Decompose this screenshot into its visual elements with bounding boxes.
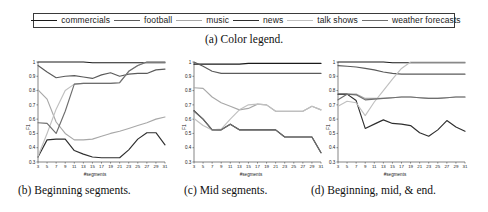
x-tick-label: 21	[273, 164, 278, 169]
x-tick-label: 23	[426, 164, 431, 169]
x-tick-label: 29	[453, 164, 458, 169]
legend-label: music	[206, 16, 229, 25]
x-tick-label: 7	[55, 164, 58, 169]
y-tick-label: 0.3	[185, 160, 192, 165]
x-tick-label: 13	[237, 164, 242, 169]
series-line-music	[194, 88, 321, 112]
legend-label: talk shows	[317, 16, 358, 25]
y-tick-label: 0.9	[185, 74, 192, 79]
y-tick-label: 0.3	[329, 160, 336, 165]
subfigure-caption-c: (c) Mid segments.	[184, 184, 314, 196]
x-tick-label: 31	[163, 164, 168, 169]
y-tick-label: 0.5	[329, 131, 336, 136]
y-tick-label: 0.8	[185, 88, 192, 93]
y-tick-label: 1	[333, 60, 336, 65]
y-tick-label: 0.7	[185, 103, 192, 108]
x-tick-label: 13	[381, 164, 386, 169]
x-tick-label: 7	[355, 164, 358, 169]
y-tick-label: 1	[189, 60, 192, 65]
series-line-talk-shows	[38, 62, 165, 156]
y-tick-label: 0.4	[329, 145, 336, 150]
chart-plot-area-0: 0.30.40.50.60.70.80.91357911131517192123…	[22, 58, 168, 178]
x-tick-label: 21	[417, 164, 422, 169]
legend-line-icon	[176, 20, 202, 21]
chart-beginning-segments: 0.30.40.50.60.70.80.91357911131517192123…	[22, 58, 168, 178]
x-tick-label: 3	[37, 164, 40, 169]
series-line-weather-forecasts	[194, 111, 321, 152]
legend-line-icon	[114, 20, 140, 21]
y-tick-label: 0.5	[185, 131, 192, 136]
y-axis-label-b: F1	[25, 124, 31, 130]
y-axis-label-d: F1	[325, 124, 331, 130]
x-tick-label: 23	[126, 164, 131, 169]
series-line-football	[38, 66, 165, 79]
x-tick-label: 29	[153, 164, 158, 169]
x-tick-label: 5	[202, 164, 205, 169]
legend-label: commercials	[61, 16, 110, 25]
y-tick-label: 0.6	[329, 117, 336, 122]
y-tick-label: 0.4	[29, 145, 36, 150]
x-tick-label: 5	[46, 164, 49, 169]
y-tick-label: 0.9	[329, 74, 336, 79]
x-tick-label: 23	[282, 164, 287, 169]
x-axis-label-d: #segments	[322, 172, 468, 177]
y-tick-label: 0.5	[29, 131, 36, 136]
figure-container: commercialsfootballmusicnewstalk showswe…	[0, 0, 488, 212]
y-axis-label-c: F1	[181, 124, 187, 130]
x-tick-label: 9	[64, 164, 67, 169]
x-tick-label: 27	[144, 164, 149, 169]
x-tick-label: 15	[390, 164, 395, 169]
axis-lines	[338, 62, 465, 162]
x-tick-label: 29	[309, 164, 314, 169]
chart-beginning-mid-end: 0.30.40.50.60.70.80.91357911131517192123…	[322, 58, 468, 178]
x-axis-label-b: #segments	[22, 172, 168, 177]
x-tick-label: 27	[300, 164, 305, 169]
y-tick-label: 0.8	[329, 88, 336, 93]
chart-plot-area-1: 0.30.40.50.60.70.80.91357911131517192123…	[178, 58, 324, 178]
y-tick-label: 0.7	[29, 103, 36, 108]
y-tick-label: 0.9	[29, 74, 36, 79]
x-tick-label: 27	[444, 164, 449, 169]
legend-label: football	[144, 16, 172, 25]
x-axis-label-c: #segments	[178, 172, 324, 177]
x-tick-label: 19	[264, 164, 269, 169]
x-tick-label: 5	[346, 164, 349, 169]
series-line-commercials	[194, 63, 321, 64]
chart-plot-area-2: 0.30.40.50.60.70.80.91357911131517192123…	[322, 58, 468, 178]
chart-mid-segments: 0.30.40.50.60.70.80.91357911131517192123…	[178, 58, 324, 178]
series-line-talk-shows	[338, 62, 465, 116]
x-tick-label: 9	[364, 164, 367, 169]
legend-item-news: news	[229, 16, 283, 25]
legend-item-talk-shows: talk shows	[283, 16, 358, 25]
legend-line-icon	[362, 20, 388, 21]
x-tick-label: 15	[90, 164, 95, 169]
x-tick-label: 13	[81, 164, 86, 169]
x-tick-label: 9	[220, 164, 223, 169]
legend-line-icon	[31, 20, 57, 21]
subfigure-caption-d: (d) Beginning, mid, & end.	[311, 184, 488, 196]
series-line-football	[338, 66, 465, 75]
x-tick-label: 17	[99, 164, 104, 169]
legend-item-music: music	[172, 16, 229, 25]
series-line-weather-forecasts	[338, 94, 465, 100]
axis-lines	[194, 62, 321, 162]
y-tick-label: 0.7	[329, 103, 336, 108]
x-tick-label: 17	[255, 164, 260, 169]
legend-line-icon	[233, 20, 259, 21]
legend-item-weather-forecasts: weather forecasts	[358, 16, 461, 25]
legend-label: news	[263, 16, 283, 25]
legend-label: weather forecasts	[392, 16, 461, 25]
x-tick-label: 31	[463, 164, 468, 169]
y-tick-label: 1	[33, 60, 36, 65]
legend-item-football: football	[110, 16, 172, 25]
x-tick-label: 25	[135, 164, 140, 169]
y-tick-label: 0.6	[185, 117, 192, 122]
x-tick-label: 11	[72, 164, 77, 169]
x-tick-label: 19	[108, 164, 113, 169]
x-tick-label: 3	[337, 164, 340, 169]
legend-item-commercials: commercials	[27, 16, 110, 25]
y-tick-label: 0.6	[29, 117, 36, 122]
subfigure-caption-b: (b) Beginning segments.	[18, 184, 174, 196]
x-tick-label: 19	[408, 164, 413, 169]
y-tick-label: 0.8	[29, 88, 36, 93]
